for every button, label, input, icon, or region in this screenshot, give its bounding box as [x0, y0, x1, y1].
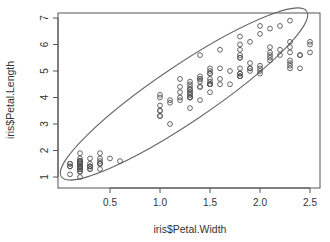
data-point: [258, 24, 263, 29]
data-point: [278, 47, 283, 52]
y-tick-label: 3: [39, 121, 50, 127]
y-tick-label: 6: [39, 41, 50, 47]
data-point: [278, 24, 283, 29]
data-point: [218, 47, 223, 52]
data-point: [178, 85, 183, 90]
data-point: [188, 106, 193, 111]
data-point: [88, 156, 93, 161]
data-point: [198, 53, 203, 58]
x-tick-label: 2.0: [253, 197, 267, 208]
data-point: [298, 66, 303, 71]
x-axis: 0.51.01.52.02.5: [103, 188, 317, 208]
scatter-plot: 0.51.01.52.02.5 1234567 iris$Petal.Width…: [0, 0, 330, 242]
data-point: [218, 82, 223, 87]
data-point: [118, 159, 123, 164]
data-point: [288, 45, 293, 50]
data-point: [178, 77, 183, 82]
data-point: [98, 167, 103, 172]
data-point: [158, 114, 163, 119]
data-points: [68, 18, 313, 179]
x-axis-title: iris$Petal.Width: [154, 223, 227, 235]
data-point: [258, 32, 263, 37]
data-point: [298, 53, 303, 58]
data-point: [288, 18, 293, 23]
data-point: [248, 61, 253, 66]
x-tick-label: 0.5: [103, 197, 117, 208]
data-point: [198, 85, 203, 90]
data-point: [158, 108, 163, 113]
data-point: [218, 77, 223, 82]
confidence-ellipse: [46, 0, 323, 200]
data-point: [268, 45, 273, 50]
data-point: [238, 47, 243, 52]
y-axis: 1234567: [39, 15, 58, 180]
y-tick-label: 4: [39, 94, 50, 100]
data-point: [208, 90, 213, 95]
x-tick-label: 1.5: [203, 197, 217, 208]
data-point: [218, 66, 223, 71]
data-point: [228, 69, 233, 74]
data-point: [168, 122, 173, 127]
data-point: [238, 42, 243, 47]
y-tick-label: 2: [39, 147, 50, 153]
data-point: [268, 26, 273, 31]
y-axis-title: iris$Petal.Length: [4, 61, 16, 139]
data-point: [238, 66, 243, 71]
data-point: [288, 50, 293, 55]
data-point: [308, 50, 313, 55]
data-point: [98, 151, 103, 156]
data-point: [228, 82, 233, 87]
x-tick-label: 2.5: [303, 197, 317, 208]
data-point: [178, 90, 183, 95]
data-point: [248, 39, 253, 44]
data-point: [108, 156, 113, 161]
data-point: [238, 34, 243, 39]
data-point: [68, 172, 73, 177]
y-tick-label: 5: [39, 68, 50, 74]
x-tick-label: 1.0: [153, 197, 167, 208]
data-point: [158, 103, 163, 108]
y-tick-label: 1: [39, 174, 50, 180]
data-point: [198, 98, 203, 103]
y-tick-label: 7: [39, 15, 50, 21]
data-point: [78, 151, 83, 156]
